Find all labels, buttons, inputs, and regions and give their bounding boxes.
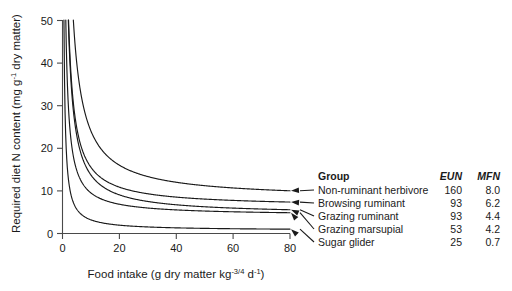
leader-arrowhead-0 <box>291 188 299 194</box>
leader-arrowhead-4 <box>291 229 299 236</box>
leader-line-4 <box>300 229 314 242</box>
x-tick-label-20: 20 <box>113 242 125 254</box>
legend-row-eun-4: 25 <box>450 236 462 248</box>
legend-row-group-3: Grazing marsupial <box>318 223 403 235</box>
legend-table: Group EUN MFN Non-ruminant herbivore 160… <box>318 170 500 248</box>
leader-line-1 <box>300 202 314 203</box>
legend-row-group-0: Non-ruminant herbivore <box>318 184 428 196</box>
legend-header-mfn: MFN <box>477 170 500 182</box>
legend-row-mfn-2: 4.4 <box>485 210 500 222</box>
y-tick-label-20: 20 <box>41 142 53 154</box>
x-tick-label-80: 80 <box>284 242 296 254</box>
y-tick-label-40: 40 <box>41 57 53 69</box>
x-axis-ticks: 0 20 40 60 80 <box>59 234 296 255</box>
legend-row-eun-2: 93 <box>450 210 462 222</box>
leader-group <box>291 188 314 243</box>
legend-row-mfn-0: 8.0 <box>485 184 500 196</box>
legend-row-eun-1: 93 <box>450 197 462 209</box>
curve-non-ruminant-herbivore <box>73 20 290 191</box>
x-tick-label-60: 60 <box>227 242 239 254</box>
chart-figure: Required diet N content (mg g-1 dry matt… <box>0 0 512 291</box>
legend-row-eun-3: 53 <box>450 223 462 235</box>
leader-line-0 <box>300 190 314 191</box>
leader-arrowhead-1 <box>291 200 299 206</box>
chart-svg: Required diet N content (mg g-1 dry matt… <box>0 0 512 291</box>
curve-grazing-ruminant <box>68 20 290 210</box>
legend-row-group-2: Grazing ruminant <box>318 210 399 222</box>
legend-header-group: Group <box>318 170 350 182</box>
y-axis-ticks: 50 40 30 20 10 0 <box>41 15 63 240</box>
x-tick-label-0: 0 <box>59 242 65 254</box>
legend-row-mfn-3: 4.2 <box>485 223 500 235</box>
legend-row-mfn-1: 6.2 <box>485 197 500 209</box>
y-tick-label-0: 0 <box>47 228 53 240</box>
legend-row-group-1: Browsing ruminant <box>318 197 405 209</box>
y-tick-label-10: 10 <box>41 185 53 197</box>
legend-row-group-4: Sugar glider <box>318 236 375 248</box>
curve-group <box>64 20 290 229</box>
y-axis-title: Required diet N content (mg g-1 dry matt… <box>9 14 22 233</box>
legend-row-mfn-4: 0.7 <box>485 236 500 248</box>
x-tick-label-40: 40 <box>170 242 182 254</box>
y-tick-label-30: 30 <box>41 100 53 112</box>
x-axis-title: Food intake (g dry matter kg-3/4 d-1) <box>88 267 265 280</box>
legend-header-eun: EUN <box>440 170 463 182</box>
y-tick-label-50: 50 <box>41 15 53 27</box>
curve-browsing-ruminant <box>69 20 290 202</box>
legend-row-eun-0: 160 <box>444 184 462 196</box>
